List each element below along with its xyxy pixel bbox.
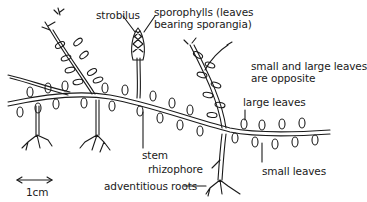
label-sporophylls-2: bearing sporangia) [154, 18, 252, 30]
rhizophore [218, 134, 222, 180]
label-sporophylls-1: sporophylls (leaves [154, 6, 253, 18]
label-opposite-1: small and large leaves [251, 60, 367, 72]
label-opposite-2: are opposite [251, 72, 315, 84]
label-small-leaves: small leaves [262, 165, 326, 177]
label-rhizophore: rhizophore [148, 163, 203, 175]
label-large-leaves: large leaves [243, 96, 306, 108]
label-strobilus: strobilus [96, 9, 140, 21]
label-stem: stem [142, 149, 168, 161]
label-adventitious-roots: adventitious roots [104, 180, 197, 192]
left-upper-branch [50, 30, 92, 94]
label-scale: 1cm [26, 186, 48, 198]
